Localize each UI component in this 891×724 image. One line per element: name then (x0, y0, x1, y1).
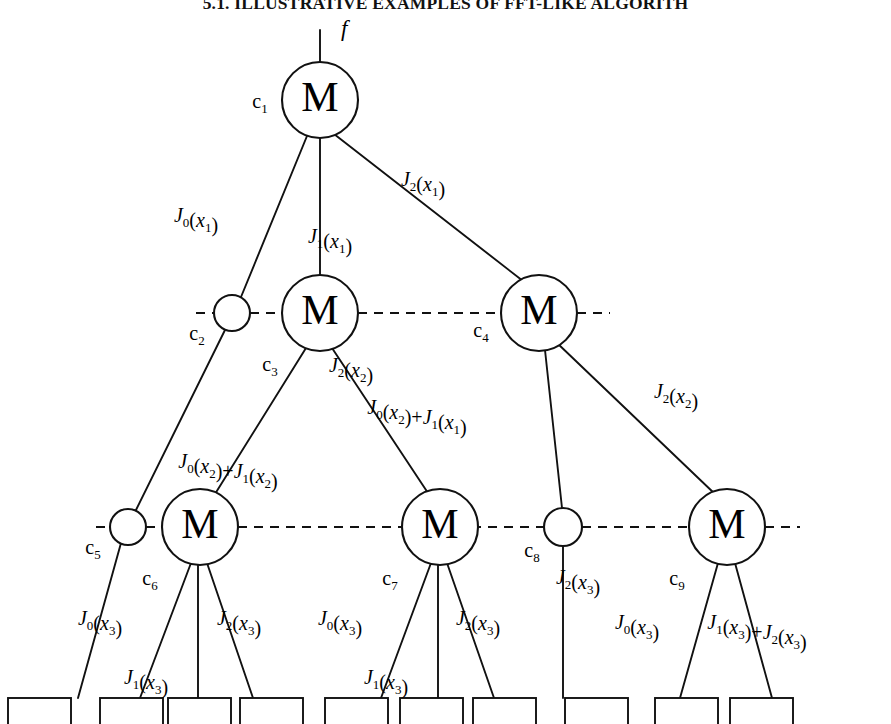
edge-label-e-J0x2J1x1: J0(x2)+J1(x1) (367, 396, 467, 439)
node-c8-circle (544, 508, 582, 546)
node-c4-tag: c4 (473, 319, 489, 345)
node-c1-letter: M (301, 74, 338, 120)
leaf-5 (325, 698, 388, 724)
edge-label-e-J0x3-c6: J0(x3) (78, 607, 122, 640)
edge-c1-c4 (334, 134, 523, 281)
edge-c2-c5 (135, 330, 225, 512)
leaf-7 (473, 698, 536, 724)
edge-label-e-J2x3-c6: J2(x3) (217, 607, 261, 640)
leaf-4 (240, 698, 303, 724)
node-c2-circle (214, 295, 250, 331)
leaf-3 (168, 698, 231, 724)
leaf-2 (100, 698, 163, 724)
node-c1-tag: c1 (252, 90, 267, 116)
node-c4-letter: M (520, 287, 557, 333)
edge-c4-c8 (545, 350, 562, 508)
figure-container: 5.1. ILLUSTRATIVE EXAMPLES OF FFT-LIKE A… (0, 0, 891, 724)
node-c8-tag: c8 (524, 539, 539, 565)
edge-label-e-J2x3-c7: J2(x3) (456, 607, 500, 640)
leaf-9 (655, 698, 718, 724)
node-c6-letter: M (181, 501, 218, 547)
node-c6-tag: c6 (142, 567, 158, 593)
root-input-label-layer: f (341, 16, 351, 41)
edge-label-e-J0x3-c7: J0(x3) (318, 607, 362, 640)
node-c5-tag: c5 (85, 536, 100, 562)
edge-layer (78, 30, 772, 698)
edge-label-e-J0x3-c9: J0(x3) (615, 611, 659, 644)
node-c3-tag: c3 (262, 353, 277, 379)
algorithm-tree-diagram: Mc1c2Mc3Mc4c5Mc6Mc7c8Mc9 J0(x1)J1(x1)J2(… (0, 0, 891, 724)
edge-label-e-J0x1: J0(x1) (174, 204, 218, 237)
leaf-10 (730, 698, 793, 724)
leaf-8 (565, 698, 628, 724)
node-c7-letter: M (421, 501, 458, 547)
node-c9-tag: c9 (669, 567, 684, 593)
edge-label-e-J1x3J2x3: J1(x3)+J2(x3) (707, 611, 807, 654)
edge-c1-c2 (241, 136, 307, 297)
node-c9-letter: M (708, 501, 745, 547)
edge-c4-c9 (556, 342, 716, 495)
leaf-6 (400, 698, 463, 724)
edge-label-e-J1x3-c6: J1(x3) (124, 666, 168, 699)
edge-label-e-J1x1: J1(x1) (308, 225, 352, 258)
node-c3-letter: M (301, 287, 338, 333)
edge-label-e-J1x3-c7: J1(x3) (364, 666, 408, 699)
edge-label-e-J2x2-right: J2(x2) (654, 380, 698, 413)
node-c5-circle (110, 509, 146, 545)
node-layer: Mc1c2Mc3Mc4c5Mc6Mc7c8Mc9 (85, 62, 765, 593)
edge-label-e-J0x2J1x2: J0(x2)+J1(x2) (178, 450, 278, 493)
node-c2-tag: c2 (189, 322, 204, 348)
root-input-label: f (341, 16, 351, 41)
leaf-box-layer (8, 698, 793, 724)
leaf-1 (8, 698, 71, 724)
edge-label-e-J2x2-left: J2(x2) (329, 354, 373, 387)
edge-label-layer: J0(x1)J1(x1)J2(x1)J2(x2)J0(x2)+J1(x1)J2(… (78, 168, 807, 699)
node-c7-tag: c7 (382, 567, 398, 593)
edge-label-e-J2x1: J2(x1) (401, 168, 445, 201)
